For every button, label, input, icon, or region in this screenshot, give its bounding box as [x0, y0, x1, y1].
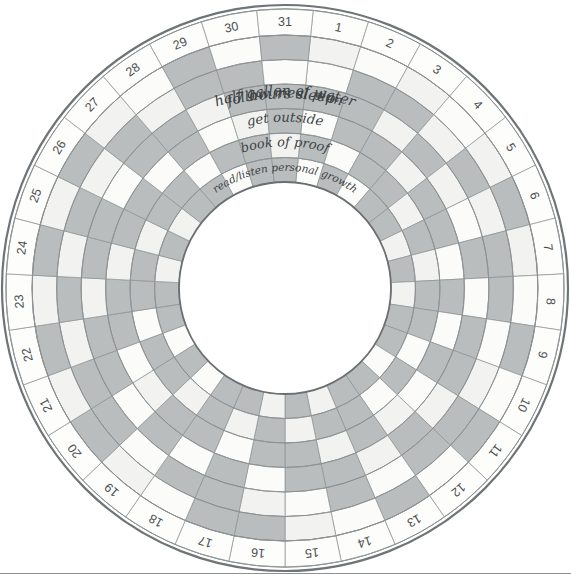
habit-cell[interactable] — [130, 280, 156, 311]
day-number: 8 — [543, 298, 557, 306]
day-number: 30 — [223, 19, 239, 36]
day-number: 31 — [278, 15, 292, 29]
habit-cell[interactable] — [244, 464, 285, 492]
habit-cell[interactable] — [411, 249, 439, 281]
page-rule — [0, 573, 571, 574]
habit-cell[interactable] — [155, 281, 181, 307]
habit-cell[interactable] — [106, 279, 132, 315]
day-number: 23 — [12, 294, 27, 309]
habit-cell[interactable] — [511, 275, 538, 326]
habit-cell[interactable] — [32, 275, 59, 326]
center-hole — [179, 182, 391, 394]
habit-cell[interactable] — [56, 276, 83, 322]
habit-tracker-wheel: 1234567891011121314151617181920212223242… — [0, 0, 571, 588]
habit-cell[interactable] — [487, 276, 514, 322]
habit-cell[interactable] — [285, 416, 316, 443]
day-number: 16 — [250, 545, 265, 560]
habit-cell[interactable] — [81, 278, 108, 319]
habit-cell[interactable] — [390, 281, 416, 307]
habit-cell[interactable] — [285, 392, 311, 419]
habit-cell[interactable] — [262, 59, 308, 85]
habit-cell[interactable] — [285, 440, 321, 468]
habit-cell[interactable] — [462, 278, 489, 319]
habit-cell[interactable] — [254, 416, 285, 443]
day-number: 15 — [304, 545, 319, 560]
day-number: 24 — [14, 240, 30, 256]
habit-cell[interactable] — [414, 280, 440, 311]
habit-cell[interactable] — [438, 279, 464, 315]
habit-cell[interactable] — [285, 464, 326, 492]
habit-cell[interactable] — [259, 35, 310, 61]
habit-cell[interactable] — [249, 440, 285, 468]
